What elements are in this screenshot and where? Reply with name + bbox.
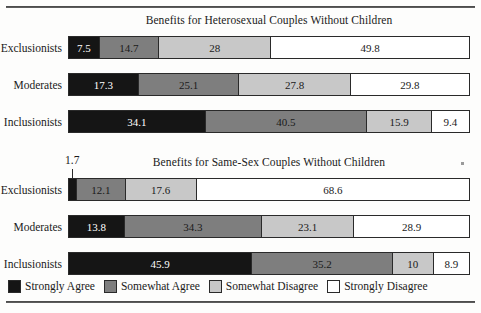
- segment-value: 29.8: [400, 79, 419, 91]
- bar-segment-somewhat-disagree: 10: [392, 253, 433, 274]
- legend-swatch-icon: [209, 280, 222, 293]
- bar-segment-somewhat-disagree: 17.6: [125, 179, 196, 200]
- chart-row: Inclusionists 45.9 35.2 10 8.9: [0, 252, 481, 275]
- bar-segment-strongly-disagree: 68.6: [196, 179, 469, 200]
- segment-value: 34.1: [127, 116, 146, 128]
- segment-value: 45.9: [150, 258, 169, 270]
- bar-segment-somewhat-agree: 14.7: [99, 37, 158, 58]
- bar-segment-strongly-agree: 34.1: [69, 111, 205, 132]
- bar-segment-strongly-agree: 7.5: [69, 37, 99, 58]
- annotation-1-7: 1.7: [65, 154, 79, 166]
- segment-value: 28: [209, 42, 220, 54]
- chart-row: Moderates 17.3 25.1 27.8 29.8: [0, 73, 481, 96]
- segment-value: 7.5: [77, 42, 91, 54]
- segment-value: 35.2: [312, 258, 331, 270]
- bar-segment-somewhat-agree: 34.3: [124, 216, 261, 237]
- chart-row: Moderates 13.8 34.3 23.1 28.9: [0, 215, 481, 238]
- segment-value: 27.8: [285, 79, 304, 91]
- segment-value: 9.4: [443, 116, 457, 128]
- segment-value: 25.1: [179, 79, 198, 91]
- bar-segment-strongly-disagree: 28.9: [353, 216, 469, 237]
- bar-segment-strongly-disagree: 8.9: [433, 253, 469, 274]
- category-label: Exclusionists: [0, 178, 62, 201]
- segment-value: 8.9: [444, 258, 458, 270]
- legend-swatch-icon: [327, 280, 340, 293]
- bar-segment-somewhat-agree: 40.5: [205, 111, 367, 132]
- chart-title-1: Benefits for Heterosexual Couples Withou…: [68, 14, 470, 26]
- stacked-bar: 13.8 34.3 23.1 28.9: [68, 215, 470, 238]
- figure-root: Benefits for Heterosexual Couples Withou…: [0, 0, 481, 313]
- legend-label: Strongly Disagree: [344, 280, 427, 292]
- bar-segment-somewhat-disagree: 27.8: [238, 74, 349, 95]
- stacked-bar: 45.9 35.2 10 8.9: [68, 252, 470, 275]
- legend-item-somewhat-disagree: Somewhat Disagree: [209, 280, 318, 293]
- bar-segment-somewhat-agree: 12.1: [76, 179, 125, 200]
- bar-segment-strongly-disagree: 49.8: [270, 37, 469, 58]
- chart-legend: Strongly Agree Somewhat Agree Somewhat D…: [8, 277, 473, 295]
- stacked-bar: 17.3 25.1 27.8 29.8: [68, 73, 470, 96]
- top-rule: [6, 6, 475, 8]
- segment-value: 23.1: [298, 221, 317, 233]
- bar-segment-somewhat-disagree: 28: [158, 37, 270, 58]
- bar-segment-somewhat-agree: 35.2: [251, 253, 392, 274]
- legend-label: Somewhat Disagree: [226, 280, 318, 292]
- segment-value: 13.8: [87, 221, 106, 233]
- stacked-bar: 1.7 12.1 17.6 68.6: [68, 178, 470, 201]
- segment-value: 17.3: [94, 79, 113, 91]
- legend-item-strongly-disagree: Strongly Disagree: [327, 280, 427, 293]
- bar-segment-somewhat-agree: 25.1: [138, 74, 239, 95]
- legend-item-strongly-agree: Strongly Agree: [8, 280, 95, 293]
- chart-row: Exclusionists 7.5 14.7 28 49.8: [0, 36, 481, 59]
- segment-value: 10: [407, 258, 418, 270]
- annotation-value: 1.7: [65, 154, 79, 166]
- legend-swatch-icon: [104, 280, 117, 293]
- segment-value: 68.6: [323, 184, 342, 196]
- category-label: Exclusionists: [0, 36, 62, 59]
- bar-segment-strongly-disagree: 9.4: [431, 111, 469, 132]
- chart-panel-same-sex: Benefits for Same-Sex Couples Without Ch…: [0, 156, 481, 276]
- chart-row: Inclusionists 34.1 40.5 15.9 9.4: [0, 110, 481, 133]
- segment-value: 49.8: [361, 42, 380, 54]
- chart-panel-heterosexual: Benefits for Heterosexual Couples Withou…: [0, 14, 481, 139]
- stacked-bar: 7.5 14.7 28 49.8: [68, 36, 470, 59]
- segment-value: 34.3: [183, 221, 202, 233]
- bottom-rule: [6, 301, 475, 303]
- category-label: Inclusionists: [0, 110, 62, 133]
- legend-item-somewhat-agree: Somewhat Agree: [104, 280, 200, 293]
- bar-segment-strongly-agree: 1.7: [69, 179, 76, 200]
- bar-segment-strongly-agree: 17.3: [69, 74, 138, 95]
- segment-value: 15.9: [389, 116, 408, 128]
- bar-segment-strongly-disagree: 29.8: [350, 74, 469, 95]
- category-label: Moderates: [0, 215, 62, 238]
- bar-segment-strongly-agree: 45.9: [69, 253, 251, 274]
- bar-segment-somewhat-disagree: 23.1: [261, 216, 354, 237]
- segment-value: 14.7: [119, 42, 138, 54]
- segment-value: 40.5: [276, 116, 295, 128]
- segment-value: 12.1: [91, 184, 110, 196]
- stacked-bar: 34.1 40.5 15.9 9.4: [68, 110, 470, 133]
- legend-swatch-icon: [8, 280, 21, 293]
- chart-title-2: Benefits for Same-Sex Couples Without Ch…: [68, 156, 470, 168]
- category-label: Inclusionists: [0, 252, 62, 275]
- segment-value: 28.9: [402, 221, 421, 233]
- bar-segment-strongly-agree: 13.8: [69, 216, 124, 237]
- bar-segment-somewhat-disagree: 15.9: [366, 111, 430, 132]
- chart-row: Exclusionists 1.7 12.1 17.6 68.6: [0, 178, 481, 201]
- legend-label: Strongly Agree: [25, 280, 95, 292]
- legend-label: Somewhat Agree: [121, 280, 200, 292]
- category-label: Moderates: [0, 73, 62, 96]
- segment-value: 17.6: [151, 184, 170, 196]
